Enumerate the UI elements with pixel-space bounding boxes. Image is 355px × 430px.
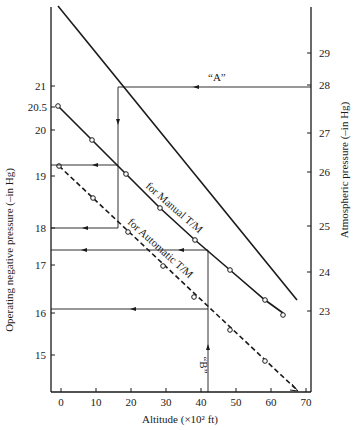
y-left-tick-label: 18 bbox=[35, 222, 47, 234]
right-y-tick-labels: 29 28 27 26 25 24 23 bbox=[319, 47, 331, 317]
annotation-b-arrows bbox=[81, 248, 210, 350]
y-left-tick-label: 15 bbox=[35, 349, 47, 361]
y-left-tick-label: 20.5 bbox=[28, 101, 48, 113]
x-tick-label: 30 bbox=[161, 396, 173, 408]
y-right-tick-label: 28 bbox=[319, 79, 331, 91]
x-tick-label: 10 bbox=[91, 396, 103, 408]
x-tick-label: 60 bbox=[266, 396, 278, 408]
y-right-tick-label: 25 bbox=[319, 220, 331, 232]
y-left-tick-label: 17 bbox=[35, 259, 47, 271]
x-tick-labels: 0 10 20 30 40 50 60 70 bbox=[58, 396, 312, 408]
x-tick-label: 40 bbox=[196, 396, 208, 408]
y-right-tick-label: 26 bbox=[319, 166, 331, 178]
y-left-tick-label: 21 bbox=[35, 80, 46, 92]
y-right-tick-label: 29 bbox=[319, 47, 331, 59]
annotation-b-label: “B” bbox=[198, 356, 210, 373]
annotation-a-label: “A” bbox=[208, 71, 226, 83]
manual-curve-label: for Manual T/M bbox=[144, 179, 206, 235]
y-left-axis-title: Operating negative pressure (–in Hg) bbox=[3, 168, 16, 332]
x-tick-label: 50 bbox=[231, 396, 243, 408]
y-right-axis-title: Atmospheric pressure (–in Hg) bbox=[338, 101, 351, 238]
x-tick-label: 0 bbox=[58, 396, 64, 408]
y-left-tick-label: 16 bbox=[35, 307, 47, 319]
x-tick-label: 20 bbox=[126, 396, 138, 408]
y-right-tick-label: 24 bbox=[319, 266, 331, 278]
x-axis-title: Altitude (×10² ft) bbox=[142, 413, 218, 426]
y-right-tick-label: 23 bbox=[319, 305, 331, 317]
x-tick-label: 70 bbox=[301, 396, 313, 408]
y-left-tick-label: 20 bbox=[35, 124, 47, 136]
left-y-tick-labels: 21 20.5 20 19 18 17 16 15 bbox=[28, 80, 48, 361]
y-right-tick-label: 27 bbox=[319, 127, 331, 139]
automatic-curve-label: for Automatic T/M bbox=[126, 216, 196, 281]
chart: 0 10 20 30 40 50 60 70 Altitude (×10² ft… bbox=[0, 0, 355, 430]
axes bbox=[51, 7, 311, 392]
y-left-tick-label: 19 bbox=[35, 170, 47, 182]
